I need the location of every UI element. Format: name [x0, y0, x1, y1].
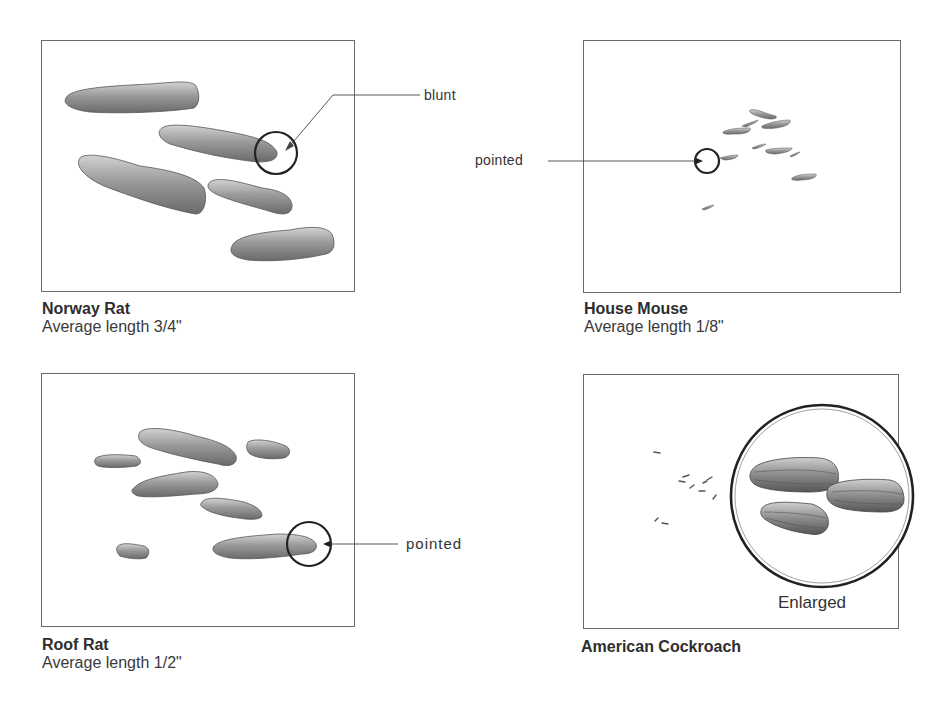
roof-rat-caption: Roof Rat Average length 1/2"	[42, 636, 182, 672]
roof-rat-pointed-label: pointed	[406, 535, 462, 552]
roof-rat-panel	[41, 373, 355, 627]
norway-rat-caption: Norway Rat Average length 3/4"	[42, 300, 182, 336]
mouse-pointed-label: pointed	[475, 152, 523, 168]
roof-rat-size: Average length 1/2"	[42, 654, 182, 672]
house-mouse-size: Average length 1/8"	[584, 318, 724, 336]
house-mouse-caption: House Mouse Average length 1/8"	[584, 300, 724, 336]
blunt-label: blunt	[424, 87, 456, 103]
norway-rat-name: Norway Rat	[42, 300, 182, 318]
house-mouse-name: House Mouse	[584, 300, 724, 318]
norway-rat-size: Average length 3/4"	[42, 318, 182, 336]
american-cockroach-panel	[583, 374, 899, 629]
enlarged-label: Enlarged	[778, 593, 846, 613]
house-mouse-panel	[583, 40, 901, 293]
american-cockroach-caption: American Cockroach	[581, 638, 741, 656]
norway-rat-panel	[41, 40, 355, 292]
american-cockroach-name: American Cockroach	[581, 638, 741, 656]
roof-rat-name: Roof Rat	[42, 636, 182, 654]
